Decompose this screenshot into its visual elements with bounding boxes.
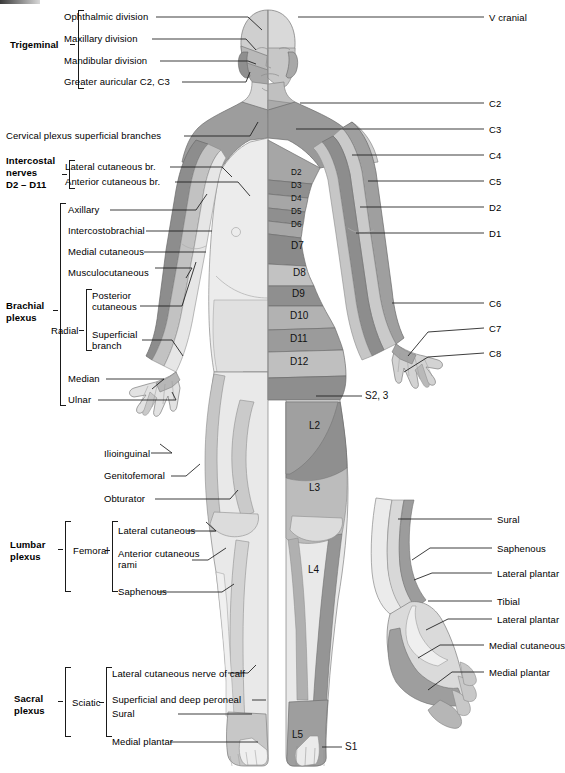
label-median: Median [68,373,100,384]
right-label-c7: C7 [489,323,501,334]
right-label-saphenous: Saphenous [497,543,546,554]
subgroup-heading-femoral: Femoral [73,545,109,556]
label-superficial-deep-peroneal: Superficial and deep peroneal [112,694,241,705]
label-posterior-cutaneous-l2: cutaneous [92,301,137,312]
group-heading-lumbar-l2: plexus [10,551,41,562]
segment-d6: D6 [291,220,301,229]
sciatic-tick [99,702,104,703]
group-heading-cervical-plexus: Cervical plexus superficial branches [6,130,161,141]
label-superficial-branch-l1: Superficial [92,329,137,340]
trigeminal-tick [70,44,75,45]
label-medial-cutaneous: Medial cutaneous [68,246,144,257]
right-label-medial-cutaneous: Medial cutaneous [489,640,565,651]
segment-l5: L5 [292,729,303,740]
group-heading-intercostal-l2: nerves [6,167,37,178]
label-maxillary-division: Maxillary division [64,33,138,44]
cervical-plexus-suffix: superficial branches [75,130,162,141]
label-musculocutaneous: Musculocutaneous [68,267,149,278]
group-heading-sacral-l1: Sacral [14,693,43,704]
segment-l3: L3 [309,482,320,493]
group-heading-sacral-l2: plexus [14,705,45,716]
foot-inset [371,498,476,728]
segment-d7: D7 [291,240,304,251]
group-heading-brachial-l2: plexus [6,312,37,323]
group-heading-intercostal-l3: D2 – D11 [6,179,46,190]
right-label-c6: C6 [489,298,501,309]
segment-d11: D11 [290,333,308,344]
right-label-lateral-plantar-upper: Lateral plantar [497,568,559,579]
label-axillary: Axillary [68,204,99,215]
right-label-tibial: Tibial [497,596,520,607]
segment-d10: D10 [290,310,308,321]
femoral-tick [105,550,110,551]
segment-d4: D4 [291,194,301,203]
right-label-v-cranial: V cranial [489,12,527,23]
right-label-c3: C3 [489,124,501,135]
figure-left-half [130,10,269,766]
label-ilioinguinal: Ilioinguinal [104,448,150,459]
segment-d12: D12 [290,356,308,367]
label-anterior-cutaneous-rami-l1: Anterior cutaneous [118,548,200,559]
lumbar-bracket [65,521,71,592]
segment-d2: D2 [291,168,301,177]
label-ophthalmic-division: Ophthalmic division [64,11,148,22]
label-anterior-cutaneous-rami-l2: rami [118,559,137,570]
cervical-plexus-bold: Cervical plexus [6,130,72,141]
segment-d9: D9 [292,288,305,299]
sacral-tick [58,701,63,702]
label-intercostobrachial: Intercostobrachial [68,225,145,236]
right-label-c5: C5 [489,176,501,187]
right-label-c8: C8 [489,348,501,359]
label-sural-left: Sural [112,708,135,719]
group-heading-intercostal-l1: Intercostal [6,155,55,166]
segment-d8: D8 [293,267,306,278]
segment-s1: S1 [345,741,357,752]
label-ulnar: Ulnar [68,394,91,405]
right-label-medial-plantar: Medial plantar [489,667,550,678]
label-anterior-cutaneous-br: Anterior cutaneous br. [65,176,160,187]
segment-d3: D3 [291,181,301,190]
label-medial-plantar-left: Medial plantar [112,736,173,747]
group-heading-lumbar-l1: Lumbar [10,539,45,550]
right-label-sural: Sural [497,514,520,525]
label-lateral-cutaneous-br: Lateral cutaneous br. [65,161,156,172]
subgroup-heading-radial: Radial [51,325,79,336]
label-superficial-branch-l2: branch [92,340,122,351]
brachial-bracket [60,203,66,406]
label-obturator: Obturator [104,493,145,504]
right-label-d2: D2 [489,202,501,213]
intercostal-tick [62,174,67,175]
group-heading-brachial-l1: Brachial [6,300,44,311]
right-label-lateral-plantar-lower: Lateral plantar [497,614,559,625]
segment-l4: L4 [308,564,319,575]
label-lateral-cutaneous-nerve-of-calf: Lateral cutaneous nerve of calf [112,668,245,679]
group-heading-trigeminal: Trigeminal [10,39,59,50]
segment-l2: L2 [309,420,320,431]
label-genitofemoral: Genitofemoral [104,470,165,481]
label-saphenous-left: Saphenous [118,586,167,597]
label-femoral-lateral-cutaneous: Lateral cutaneous [118,525,195,536]
segment-s2-3: S2, 3 [365,390,388,401]
label-greater-auricular: Greater auricular C2, C3 [64,76,170,87]
right-label-c4: C4 [489,150,501,161]
lumbar-tick [58,549,63,550]
subgroup-heading-sciatic: Sciatic [72,697,101,708]
label-mandibular-division: Mandibular division [64,55,147,66]
brachial-tick [53,310,58,311]
radial-tick [79,330,84,331]
label-posterior-cutaneous-l1: Posterior [92,290,131,301]
sacral-bracket [65,667,71,737]
right-label-d1: D1 [489,228,501,239]
right-label-c2: C2 [489,98,501,109]
segment-d5: D5 [291,207,301,216]
